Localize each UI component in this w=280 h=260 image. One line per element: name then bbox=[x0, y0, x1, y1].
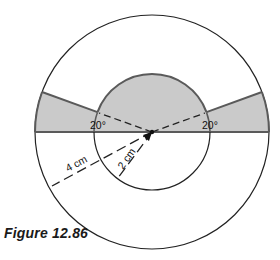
right-angle-label: 20° bbox=[202, 119, 218, 131]
figure-caption: Figure 12.86 bbox=[4, 225, 88, 241]
geometry-figure: 20° 20° 4 cm 2 cm bbox=[0, 0, 280, 260]
left-angle-label: 20° bbox=[90, 119, 106, 131]
